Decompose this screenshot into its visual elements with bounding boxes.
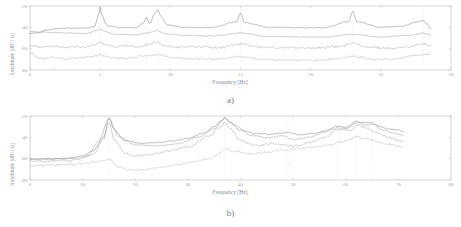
plot-area-a: 051015202530-20-40-60-80: [0, 0, 461, 88]
plot-area-b: 01020304050607080-20-40-60-80: [0, 110, 461, 198]
panel-a: Amplitude [dB/1 u] 051015202530-20-40-60…: [0, 0, 461, 113]
x-tick-label: 5: [99, 72, 102, 77]
series-line: [30, 29, 431, 38]
x-tick-label: 50: [291, 182, 296, 187]
y-tick-label: -60: [21, 46, 28, 51]
y-tick-label: -20: [21, 4, 28, 9]
panel-b: Amplitude [dB/1 u] 01020304050607080-20-…: [0, 110, 461, 227]
x-tick-label: 10: [168, 72, 173, 77]
y-tick-label: -40: [21, 135, 28, 140]
series-line: [30, 136, 403, 170]
series-line: [30, 41, 431, 49]
x-tick-label: 0: [29, 182, 32, 187]
y-tick-label: -60: [21, 156, 28, 161]
caption-a: a): [0, 95, 461, 105]
x-axis-label-a: Frequency [Hz]: [160, 79, 300, 85]
x-tick-label: 70: [396, 182, 401, 187]
y-tick-label: -80: [21, 68, 28, 73]
x-tick-label: 30: [185, 182, 190, 187]
series-line: [30, 118, 403, 159]
caption-b: b): [0, 208, 461, 218]
y-tick-label: -20: [21, 114, 28, 119]
y-tick-label: -80: [21, 178, 28, 183]
series-line: [30, 7, 431, 33]
x-tick-label: 25: [378, 72, 383, 77]
series-line: [30, 52, 431, 61]
plot-svg-b: 01020304050607080-20-40-60-80: [0, 110, 461, 198]
figure-container: Amplitude [dB/1 u] 051015202530-20-40-60…: [0, 0, 461, 227]
series-line: [30, 118, 403, 159]
x-tick-label: 10: [80, 182, 85, 187]
x-axis-label-b: Frequency [Hz]: [160, 189, 300, 195]
x-tick-label: 80: [449, 182, 454, 187]
plot-svg-a: 051015202530-20-40-60-80: [0, 0, 461, 88]
x-tick-label: 20: [133, 182, 138, 187]
x-tick-label: 60: [343, 182, 348, 187]
x-tick-label: 15: [238, 72, 243, 77]
x-tick-label: 40: [238, 182, 243, 187]
y-tick-label: -40: [21, 25, 28, 30]
x-tick-label: 0: [29, 72, 32, 77]
x-tick-label: 20: [308, 72, 313, 77]
x-tick-label: 30: [449, 72, 454, 77]
